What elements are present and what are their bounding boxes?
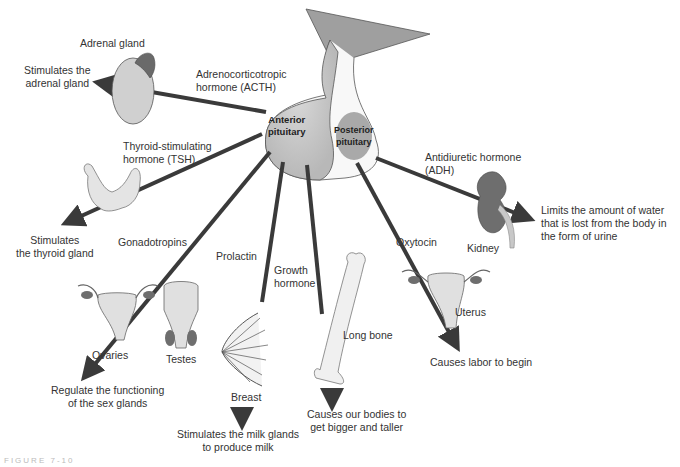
adh-label: Antidiuretic hormone (ADH)	[425, 151, 521, 177]
thyroid-icon	[84, 164, 140, 211]
effect-thyroid: Stimulates the thyroid gland	[16, 234, 94, 260]
testes-icon	[164, 282, 198, 349]
gonadotropins-label: Gonadotropins	[118, 236, 187, 249]
prolactin-label: Prolactin	[216, 250, 257, 263]
breast-icon	[222, 313, 268, 386]
oxytocin-label: Oxytocin	[396, 236, 437, 249]
oxytocin-arrow	[357, 163, 456, 345]
growth-hormone-label: Growth hormone	[274, 264, 315, 290]
long-bone-label: Long bone	[343, 329, 393, 342]
effect-sex-glands: Regulate the functioning of the sex glan…	[51, 384, 164, 410]
effect-water: Limits the amount of water that is lost …	[541, 204, 666, 243]
anterior-pituitary-label: Anterior pituitary	[268, 114, 305, 138]
uterus-label: Uterus	[455, 306, 486, 319]
adrenal-gland-icon	[112, 53, 155, 124]
effect-labor: Causes labor to begin	[430, 356, 532, 369]
effect-milk: Stimulates the milk glands to produce mi…	[177, 428, 299, 454]
effect-adrenal: Stimulates the adrenal gland	[24, 64, 91, 90]
anterior-pituitary-shape	[265, 40, 338, 180]
uterus-icon	[402, 270, 490, 328]
kidney-label: Kidney	[467, 242, 499, 255]
acth-label: Adrenocorticotropic hormone (ACTH)	[196, 68, 286, 94]
ovaries-icon	[78, 285, 158, 340]
long-bone-icon	[314, 253, 365, 384]
ovaries-label: Ovaries	[92, 349, 128, 362]
testes-label: Testes	[166, 353, 196, 366]
posterior-pituitary-label: Posterior pituitary	[334, 124, 374, 148]
figure-caption: FIGURE 7-10	[4, 456, 74, 465]
growth-arrow	[307, 165, 322, 314]
effect-growth: Causes our bodies to get bigger and tall…	[307, 408, 406, 434]
tsh-label: Thyroid-stimulating hormone (TSH)	[123, 140, 212, 166]
adrenal-gland-label: Adrenal gland	[80, 37, 145, 50]
breast-label: Breast	[231, 391, 261, 404]
